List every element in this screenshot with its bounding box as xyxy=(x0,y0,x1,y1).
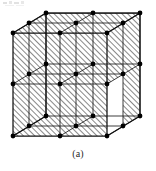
figure-container: (a) xyxy=(0,0,156,171)
lattice-node xyxy=(11,134,16,139)
lattice-node xyxy=(11,31,16,36)
lattice-node xyxy=(44,62,49,67)
lattice-node xyxy=(58,134,63,139)
lattice-node xyxy=(91,11,96,16)
lattice-node xyxy=(74,72,79,77)
lattice-node xyxy=(121,124,126,129)
lattice-node xyxy=(58,82,63,87)
lattice-node xyxy=(138,114,143,119)
lattice-node xyxy=(44,114,49,119)
lattice-node xyxy=(44,11,49,16)
figure-caption: (a) xyxy=(0,148,156,160)
lattice-node xyxy=(27,72,32,77)
face-right-hatched-lower xyxy=(123,64,140,126)
lattice-node xyxy=(27,124,32,129)
lattice-node xyxy=(138,11,143,16)
lattice-node xyxy=(105,134,110,139)
lattice-node xyxy=(74,124,79,129)
lattice-node xyxy=(74,21,79,26)
lattice-node xyxy=(105,31,110,36)
lattice-node xyxy=(138,62,143,67)
cubic-lattice-diagram xyxy=(0,0,156,171)
lattice-node xyxy=(121,72,126,77)
lattice-node xyxy=(58,31,63,36)
lattice-node xyxy=(91,114,96,119)
lattice-node xyxy=(11,82,16,87)
lattice-node xyxy=(105,82,110,87)
lattice-node xyxy=(27,21,32,26)
lattice-node xyxy=(121,21,126,26)
lattice-node xyxy=(91,62,96,67)
